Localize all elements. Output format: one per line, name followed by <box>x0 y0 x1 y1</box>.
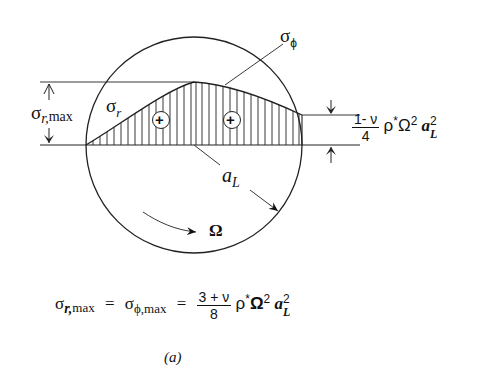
sigma-phi-leader <box>225 44 283 85</box>
radius-arrow <box>250 190 278 211</box>
sigma-r-max-label: σr,max <box>31 103 73 122</box>
plus-sign-right: + <box>226 112 235 127</box>
plus-sign-left: + <box>155 112 164 127</box>
equation-fraction: 3 + ν8 <box>197 290 232 321</box>
sigma-phi-label: σϕ <box>280 26 297 49</box>
max-stress-equation: σr,max = σϕ,max = 3 + ν8 ρ*Ω2 a2L <box>55 290 290 321</box>
edge-fraction: 1- ν4 <box>352 112 379 143</box>
sigma-r-label: σr <box>106 96 121 119</box>
radius-label: aL <box>222 165 240 190</box>
figure-caption: (a) <box>164 350 182 365</box>
edge-stress-formula: 1- ν4 ρ*Ω2 a2L <box>352 112 437 143</box>
rotation-arrow <box>143 212 196 232</box>
stress-hatching <box>93 60 299 150</box>
omega-label: Ω <box>209 222 223 239</box>
radius-line-1 <box>194 145 220 165</box>
